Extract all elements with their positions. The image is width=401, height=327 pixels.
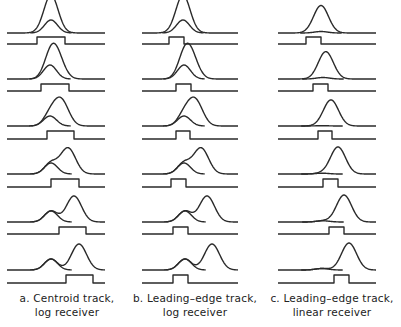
range-gate-a-5: [7, 227, 105, 234]
caption-c-line1: c. Leading–edge track,: [265, 291, 399, 305]
composite-return-c-2: [278, 52, 376, 79]
range-gate-a-3: [7, 131, 105, 139]
range-gate-c-1: [278, 37, 376, 44]
composite-return-b-2: [142, 43, 238, 79]
caption-c: c. Leading–edge track, linear receiver: [265, 291, 399, 319]
target-return-c-5: [302, 221, 344, 222]
composite-return-c-3: [278, 100, 376, 126]
range-gate-a-1: [7, 37, 105, 44]
tracking-diagram: [0, 0, 401, 327]
caption-b-line1: b. Leading–edge track,: [128, 291, 262, 305]
range-gate-a-6: [7, 275, 105, 283]
composite-return-c-1: [278, 6, 376, 34]
range-gate-a-2: [7, 84, 105, 91]
composite-return-a-5: [7, 196, 105, 222]
composite-return-a-4: [7, 148, 105, 174]
composite-return-b-3: [142, 97, 238, 126]
target-return-b-6: [164, 259, 206, 270]
target-return-c-1: [300, 32, 342, 33]
range-gate-b-2: [142, 84, 238, 91]
composite-return-a-3: [7, 97, 105, 126]
composite-return-b-6: [142, 244, 238, 270]
target-return-a-4: [30, 163, 71, 174]
range-gate-b-5: [142, 227, 238, 234]
caption-a-line2: log receiver: [0, 305, 134, 319]
caption-b-line2: log receiver: [128, 305, 262, 319]
composite-return-b-1: [142, 0, 238, 33]
caption-a-line1: a. Centroid track,: [0, 291, 134, 305]
composite-return-a-1: [7, 0, 105, 33]
target-return-a-5: [30, 211, 71, 222]
target-return-b-5: [164, 211, 206, 222]
composite-return-a-2: [7, 43, 105, 79]
composite-return-a-6: [7, 244, 105, 270]
target-return-c-4: [301, 173, 343, 174]
caption-c-line2: linear receiver: [265, 305, 399, 319]
range-gate-b-4: [142, 179, 238, 187]
range-gate-b-3: [142, 131, 238, 139]
range-gate-c-4: [278, 179, 376, 187]
target-return-a-1: [30, 20, 71, 33]
composite-return-c-5: [278, 195, 376, 222]
range-gate-c-6: [278, 275, 376, 283]
range-gate-b-1: [142, 37, 238, 44]
range-gate-a-4: [7, 179, 105, 187]
target-return-c-6: [301, 269, 343, 270]
range-gate-b-6: [142, 275, 238, 283]
composite-return-b-4: [142, 148, 238, 174]
range-gate-c-3: [278, 131, 376, 139]
composite-return-c-6: [278, 243, 376, 270]
target-return-b-4: [163, 163, 205, 174]
range-gate-c-5: [278, 227, 376, 234]
target-return-b-1: [162, 20, 204, 33]
caption-b: b. Leading–edge track, log receiver: [128, 291, 262, 319]
composite-return-c-4: [278, 147, 376, 174]
composite-return-b-5: [142, 196, 238, 222]
caption-a: a. Centroid track, log receiver: [0, 291, 134, 319]
range-gate-c-2: [278, 84, 376, 91]
